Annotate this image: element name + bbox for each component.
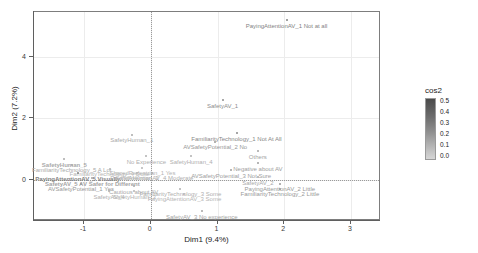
x-tick-label: -1 (80, 225, 86, 232)
point-label: Negative about AV (233, 166, 282, 172)
legend-tick-label: 0.0 (440, 153, 449, 160)
x-tick-label: 2 (281, 225, 285, 232)
y-axis-line (33, 11, 34, 220)
point-label: FamiliarityTechnology_1 Not At All (191, 136, 281, 142)
x-tick-mark (217, 220, 218, 224)
data-point (136, 172, 138, 174)
legend-tick-list: 0.50.40.30.20.10.0 (440, 98, 449, 160)
data-point (71, 164, 73, 166)
x-tick-mark (283, 220, 284, 224)
data-point (257, 150, 259, 152)
data-point (236, 132, 238, 134)
x-tick-label: 1 (215, 225, 219, 232)
data-point (279, 183, 281, 185)
data-point (279, 188, 281, 190)
data-point (183, 193, 185, 195)
data-point (141, 167, 143, 169)
gridline-vertical (218, 12, 219, 219)
point-label: AVSafetyPotential_1 Yes (48, 186, 114, 192)
point-label: FamiliarityTechnology_2 Little (241, 191, 320, 197)
data-point (257, 176, 259, 178)
data-point (179, 188, 181, 190)
point-label: PayingAttentionAV_3 Some (148, 196, 222, 202)
data-point (91, 177, 93, 179)
y-tick-mark (29, 117, 33, 118)
point-label: Others (249, 154, 267, 160)
data-point (286, 19, 288, 21)
x-tick-label: 0 (148, 225, 152, 232)
x-tick-mark (150, 220, 151, 224)
mca-factor-map-chart: Dim1 (9.4%) Dim2 (7.2%) cos2 0.50.40.30.… (0, 0, 478, 253)
data-point (133, 185, 135, 187)
data-point (257, 162, 259, 164)
legend-colorbar (425, 98, 436, 160)
point-label: PayingAttentionAV_1 Not at all (246, 23, 328, 29)
point-label: No Experience (127, 159, 166, 165)
point-label: SafetyHuman_4 (170, 159, 213, 165)
data-point (151, 172, 153, 174)
x-tick-label: 3 (348, 225, 352, 232)
data-point (214, 141, 216, 143)
data-point (108, 190, 110, 192)
point-label: AVSafetyPotential_2 No (183, 144, 247, 150)
point-label: AVSafetyPotential_3 Not Sure (191, 173, 271, 179)
x-tick-mark (83, 220, 84, 224)
y-axis-title: Dim2 (7.2%) (10, 54, 19, 164)
data-point (230, 169, 232, 171)
legend-tick-label: 0.4 (440, 109, 449, 116)
point-label: SafetyAV_1 (207, 103, 238, 109)
y-tick-label: 0 (22, 175, 26, 182)
y-tick-mark (29, 56, 33, 57)
data-point (131, 134, 133, 136)
legend-tick-label: 0.3 (440, 120, 449, 127)
data-point (80, 183, 82, 185)
y-tick-label: 2 (22, 114, 26, 121)
data-point (77, 172, 79, 174)
x-tick-mark (350, 220, 351, 224)
x-axis-title: Dim1 (9.4%) (0, 235, 413, 244)
data-point (190, 155, 192, 157)
legend-title: cos2 (425, 86, 477, 95)
data-point (222, 99, 224, 101)
gridline-horizontal (34, 118, 379, 119)
point-label: SafetyAV_2 (242, 180, 273, 186)
y-tick-mark (29, 179, 33, 180)
data-point (133, 190, 135, 192)
x-axis-line (33, 220, 380, 221)
legend: cos2 0.50.40.30.20.10.0 (425, 86, 477, 160)
gridline-vertical (351, 12, 352, 219)
point-label: SafetyAV_3 No experience (166, 214, 238, 220)
legend-tick-label: 0.1 (440, 142, 449, 149)
y-tick-label: 4 (22, 52, 26, 59)
gridline-horizontal (34, 57, 379, 58)
legend-tick-label: 0.2 (440, 131, 449, 138)
data-point (145, 155, 147, 157)
data-point (201, 210, 203, 212)
legend-tick-label: 0.5 (440, 98, 449, 105)
point-label: SafetyHuman_1 (110, 137, 153, 143)
data-point (63, 158, 65, 160)
